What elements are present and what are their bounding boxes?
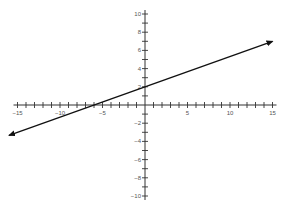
coordinate-plane: −15−10−551015 108642−2−4−6−8−10 — [0, 0, 287, 222]
y-tick-label: 4 — [138, 66, 142, 72]
y-tick-label: −10 — [131, 193, 142, 199]
x-tick-label: −15 — [12, 110, 23, 116]
x-axis-tick-labels: −15−10−551015 — [12, 110, 276, 116]
x-tick-label: 5 — [186, 110, 190, 116]
y-tick-label: 8 — [138, 29, 142, 35]
y-tick-label: −4 — [134, 138, 142, 144]
y-tick-label: −8 — [134, 175, 142, 181]
y-tick-label: 6 — [138, 47, 142, 53]
x-tick-label: 15 — [269, 110, 276, 116]
y-tick-label: −6 — [134, 157, 142, 163]
x-tick-label: 10 — [227, 110, 234, 116]
y-tick-label: 10 — [134, 11, 141, 17]
y-tick-label: −2 — [134, 120, 142, 126]
x-tick-label: −5 — [99, 110, 107, 116]
